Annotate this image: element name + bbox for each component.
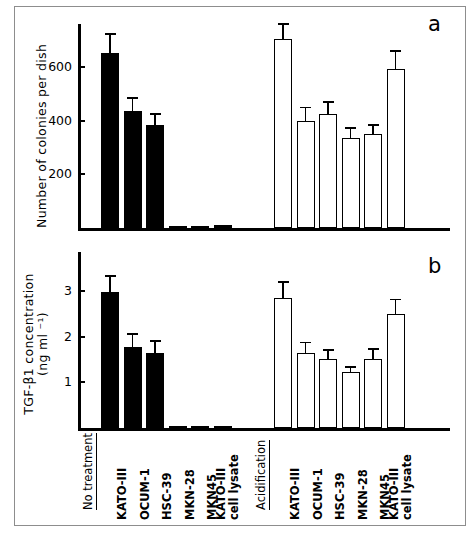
bar-b-acidification-0 <box>274 298 292 428</box>
error-cap-a-1-3 <box>345 127 356 129</box>
error-cap-b-1-3 <box>345 366 356 368</box>
bar-b-no-treatment-0 <box>101 292 119 428</box>
error-cap-a-1-0 <box>278 23 289 25</box>
error-cap-b-0-2 <box>150 340 161 342</box>
x-tick-label-0-0: KATO-III <box>115 468 129 520</box>
panel-b-y-tick <box>79 290 85 292</box>
error-cap-b-0-1 <box>127 333 138 335</box>
panel-a-x-axis-line <box>78 228 450 231</box>
x-tick-label-line2: cell lysate <box>399 454 413 520</box>
bar-a-acidification-1 <box>297 121 315 228</box>
error-cap-b-1-5 <box>390 299 401 301</box>
error-cap-a-1-4 <box>368 124 379 126</box>
panel-a-y-tick-label: 600 <box>32 59 72 74</box>
error-bar-a-1-5 <box>395 50 397 69</box>
error-bar-a-1-0 <box>282 23 284 39</box>
error-cap-a-0-2 <box>150 113 161 115</box>
figure-root: a Number of colonies per dish 200400600 … <box>0 0 475 545</box>
panel-b-y-tick <box>79 381 85 383</box>
panel-b-y-axis-title-line2: (ng ml ⁻¹) <box>35 312 50 376</box>
panel-a: a Number of colonies per dish 200400600 <box>0 0 475 240</box>
panel-b-y-tick <box>79 336 85 338</box>
error-cap-a-1-1 <box>300 107 311 109</box>
x-tick-label-1-5: KATO-IIIcell lysate <box>388 434 414 520</box>
error-cap-a-1-5 <box>390 50 401 52</box>
panel-a-y-axis-line <box>78 24 81 228</box>
bar-b-no-treatment-4 <box>191 426 209 428</box>
x-group-label-no-treatment: No treatment <box>81 433 97 510</box>
bar-a-no-treatment-0 <box>101 53 119 228</box>
bar-b-no-treatment-1 <box>124 347 142 428</box>
panel-b-x-axis-line <box>78 428 450 431</box>
bar-a-acidification-3 <box>342 138 360 228</box>
bar-a-no-treatment-1 <box>124 111 142 228</box>
panel-b-y-tick-label: 1 <box>32 374 72 389</box>
bar-b-acidification-3 <box>342 372 360 428</box>
panel-b-y-tick-label: 2 <box>32 329 72 344</box>
error-cap-b-1-1 <box>300 342 311 344</box>
panel-a-plot-area: 200400600 <box>78 24 448 228</box>
error-cap-b-1-2 <box>323 349 334 351</box>
bar-a-acidification-2 <box>319 114 337 228</box>
panel-a-y-tick-label: 400 <box>32 113 72 128</box>
x-tick-label-1-3: MKN-28 <box>356 469 370 520</box>
x-tick-label-1-2: HSC-39 <box>333 473 347 520</box>
error-bar-b-1-5 <box>395 299 397 314</box>
bar-b-acidification-1 <box>297 353 315 428</box>
bar-a-no-treatment-3 <box>169 226 187 228</box>
x-tick-label-0-3: MKN-28 <box>183 469 197 520</box>
panel-b-y-tick-label: 3 <box>32 283 72 298</box>
error-cap-b-1-4 <box>368 348 379 350</box>
error-cap-a-1-2 <box>323 101 334 103</box>
error-bar-a-1-2 <box>327 101 329 114</box>
error-bar-a-0-1 <box>132 97 134 111</box>
panel-a-y-tick-label: 200 <box>32 166 72 181</box>
bar-a-acidification-5 <box>387 69 405 228</box>
panel-b-plot-area: 123 <box>78 252 448 428</box>
bar-a-no-treatment-5 <box>214 225 232 228</box>
error-cap-a-0-1 <box>127 97 138 99</box>
error-bar-a-1-1 <box>305 107 307 121</box>
x-group-label-acidification: Acidification <box>254 440 270 510</box>
error-bar-b-0-1 <box>132 333 134 347</box>
error-cap-b-0-0 <box>105 275 116 277</box>
bar-a-no-treatment-4 <box>191 226 209 228</box>
panel-a-y-tick <box>79 120 85 122</box>
error-bar-b-0-0 <box>109 275 111 292</box>
x-tick-label-0-2: HSC-39 <box>160 473 174 520</box>
x-tick-label-0-1: OCUM-1 <box>138 468 152 520</box>
panel-a-y-tick <box>79 66 85 68</box>
panel-a-y-tick <box>79 173 85 175</box>
error-cap-a-0-0 <box>105 33 116 35</box>
bar-a-acidification-4 <box>364 134 382 228</box>
x-tick-label-1-1: OCUM-1 <box>311 468 325 520</box>
bar-b-no-treatment-2 <box>146 353 164 428</box>
x-tick-label-line1: KATO-III <box>214 468 228 520</box>
error-cap-b-1-0 <box>278 281 289 283</box>
panel-b: b TGF-β1 concentration (ng ml ⁻¹) 123 <box>0 240 475 440</box>
panel-b-y-axis-line <box>78 252 81 428</box>
bar-a-no-treatment-2 <box>146 125 164 228</box>
bar-b-no-treatment-5 <box>214 426 232 428</box>
x-tick-label-1-0: KATO-III <box>288 468 302 520</box>
x-tick-label-0-5: KATO-IIIcell lysate <box>215 434 241 520</box>
bar-b-acidification-2 <box>319 359 337 428</box>
bar-b-acidification-4 <box>364 359 382 428</box>
error-bar-b-0-2 <box>154 340 156 353</box>
bar-b-no-treatment-3 <box>169 426 187 428</box>
bar-b-acidification-5 <box>387 314 405 428</box>
x-tick-label-line1: KATO-III <box>387 468 401 520</box>
x-axis-labels: No treatmentAcidificationKATO-IIIOCUM-1H… <box>0 432 475 542</box>
error-bar-b-1-0 <box>282 281 284 298</box>
error-bar-a-0-0 <box>109 33 111 53</box>
x-tick-label-line2: cell lysate <box>226 454 240 520</box>
bar-a-acidification-0 <box>274 39 292 228</box>
